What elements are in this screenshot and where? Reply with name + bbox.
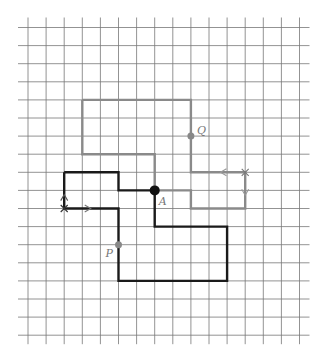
point-p-dot — [115, 241, 122, 248]
grid-lines — [18, 18, 310, 345]
point-a-label: A — [158, 195, 167, 208]
point-p-label: P — [105, 247, 114, 260]
point-q-dot — [187, 133, 194, 140]
point-q-label: Q — [197, 124, 206, 137]
grid-diagram: AQP — [0, 0, 326, 361]
point-a-dot — [150, 185, 160, 195]
